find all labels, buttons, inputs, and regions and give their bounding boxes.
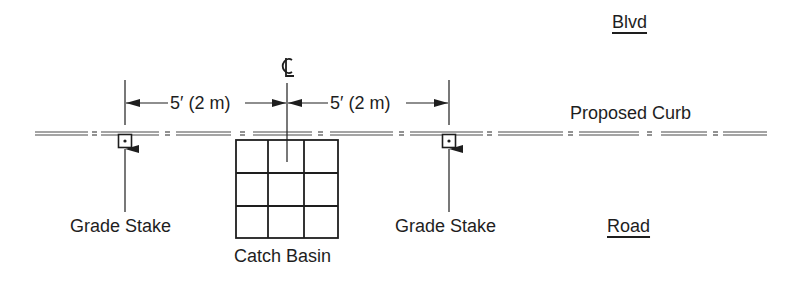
diagram-canvas: Blvd Proposed Curb 5′ (2 m) 5′ (2 m) Gra… xyxy=(0,0,810,286)
street-label-road: Road xyxy=(607,216,650,236)
right-grade-stake xyxy=(443,135,456,213)
street-label-blvd: Blvd xyxy=(612,12,647,32)
left-grade-stake-label: Grade Stake xyxy=(70,216,171,236)
proposed-curb-label: Proposed Curb xyxy=(570,103,691,123)
catch-basin-label: Catch Basin xyxy=(234,246,331,266)
left-grade-stake xyxy=(119,135,132,213)
left-dimension-text: 5′ (2 m) xyxy=(168,93,232,113)
diagram-drawing xyxy=(0,0,810,286)
centerline-symbol xyxy=(283,58,294,76)
proposed-curb-line xyxy=(35,132,767,135)
right-grade-stake-label: Grade Stake xyxy=(395,216,496,236)
right-dimension-text: 5′ (2 m) xyxy=(328,93,392,113)
